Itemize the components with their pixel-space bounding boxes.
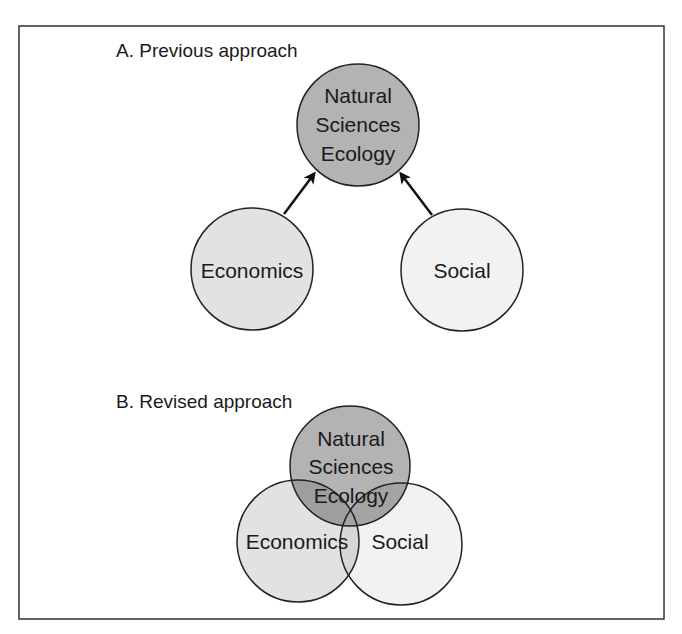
natural-b-label-line1: Natural <box>317 427 385 450</box>
economics-b-label: Economics <box>246 530 349 553</box>
social-label: Social <box>433 259 490 282</box>
node-social-a: Social <box>401 209 523 331</box>
natural-label-line1: Natural <box>324 84 392 107</box>
social-b-label: Social <box>371 530 428 553</box>
panel-a-title: A. Previous approach <box>116 40 298 61</box>
diagram-canvas: A. Previous approach Natural Sciences Ec… <box>0 0 682 634</box>
panel-b-title: B. Revised approach <box>116 391 292 412</box>
natural-b-label-line2: Sciences <box>308 455 393 478</box>
natural-label-line2: Sciences <box>315 113 400 136</box>
natural-b-label-line3: Ecology <box>314 484 389 507</box>
node-natural-sciences-a: Natural Sciences Ecology <box>297 64 419 186</box>
economics-label: Economics <box>201 259 304 282</box>
natural-label-line3: Ecology <box>321 142 396 165</box>
node-economics-a: Economics <box>191 208 313 330</box>
